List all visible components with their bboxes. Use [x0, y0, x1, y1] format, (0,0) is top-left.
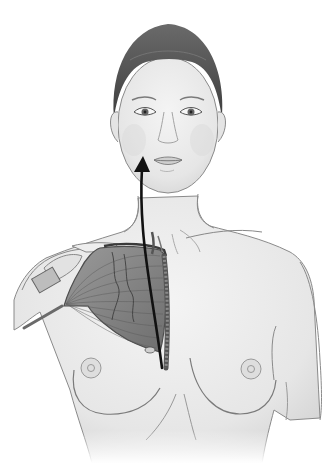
illustration-svg: [0, 0, 335, 463]
head: [111, 24, 226, 193]
anatomy-illustration: [0, 0, 335, 463]
